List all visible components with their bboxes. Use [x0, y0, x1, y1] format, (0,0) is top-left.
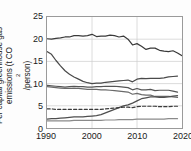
y-tick-label: 20 [26, 34, 43, 44]
plot-svg [47, 17, 182, 128]
chart-container: Per capital greenhouse gas emissions (t … [0, 0, 191, 151]
y-tick-label: 10 [26, 79, 43, 89]
series-top [47, 34, 182, 55]
series-mid-lower [47, 87, 177, 98]
y-tick-label: 5 [26, 101, 43, 111]
y-axis-label-line1: Per capital greenhouse gas [0, 27, 5, 124]
x-tick-label: 2000 [82, 131, 102, 141]
y-axis-label: Per capital greenhouse gas emissions (t … [0, 0, 28, 151]
y-tick-label: 15 [26, 56, 43, 66]
y-axis-label-subscript: 2 [14, 27, 23, 124]
x-tick-label: 1990 [36, 131, 56, 141]
series-world-average [47, 106, 177, 109]
y-tick-label: 25 [26, 11, 43, 21]
x-axis-ticks: 1990200020102020 [0, 131, 191, 145]
series-rising [47, 96, 177, 120]
data-series-group [47, 34, 182, 121]
x-tick-label: 2010 [127, 131, 147, 141]
y-axis-label-line2-pre: emissions (t CO [5, 27, 14, 124]
x-tick-label: 2020 [173, 131, 191, 141]
y-axis-ticks: 0510152025 [26, 0, 43, 151]
series-bottom [47, 119, 177, 121]
series-steep-decline [47, 52, 177, 84]
plot-area [46, 16, 183, 129]
